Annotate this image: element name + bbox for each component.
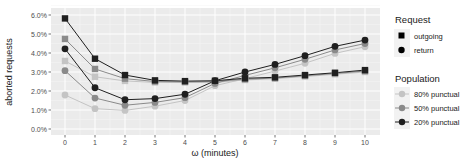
y-tick-label: 6.0% [31, 12, 47, 19]
legend-item-outgoing: outgoing [394, 29, 443, 43]
legend-label-50-punctual: 50% punctual [414, 104, 460, 113]
chart: 0.0%1.0%2.0%3.0%4.0%5.0%6.0% 01234567891… [0, 0, 476, 162]
square-marker-icon [399, 33, 405, 39]
circle-data-point [242, 69, 249, 76]
legend-title-population: Population [395, 73, 440, 84]
x-tick-label: 5 [213, 139, 217, 146]
square-data-point [62, 36, 68, 42]
legend: Request outgoing return Population 80% p… [394, 14, 460, 129]
legend-label-20-punctual: 20% punctual [414, 118, 460, 127]
square-data-point [302, 72, 308, 78]
legend-item-20-punctual: 20% punctual [394, 115, 460, 129]
circle-data-point [152, 95, 159, 102]
y-axis-title: aborted requests [4, 38, 14, 106]
square-data-point [62, 15, 68, 21]
square-data-point [62, 58, 68, 64]
x-tick-label: 10 [361, 139, 369, 146]
y-tick-label: 3.0% [31, 69, 47, 76]
circle-data-point [362, 37, 369, 44]
circle-data-point [92, 105, 99, 112]
dark-circle-marker-icon [399, 119, 405, 125]
legend-label-outgoing: outgoing [414, 32, 443, 41]
x-tick-label: 6 [243, 139, 247, 146]
square-data-point [122, 72, 128, 78]
x-axis-title: ω (minutes) [191, 148, 238, 158]
y-tick-label: 5.0% [31, 31, 47, 38]
circle-data-point [122, 96, 129, 103]
square-data-point [272, 74, 278, 80]
square-data-point [182, 78, 188, 84]
x-tick-label: 8 [303, 139, 307, 146]
x-tick-label: 1 [93, 139, 97, 146]
medium-circle-marker-icon [399, 105, 405, 111]
x-axis: 012345678910 [63, 135, 369, 146]
circle-data-point [212, 77, 219, 84]
circle-data-point [272, 61, 279, 68]
circle-data-point [332, 43, 339, 50]
circle-data-point [302, 52, 309, 59]
circle-data-point [182, 91, 189, 98]
legend-label-80-punctual: 80% punctual [414, 90, 460, 99]
y-tick-label: 0.0% [31, 126, 47, 133]
x-tick-label: 3 [153, 139, 157, 146]
x-tick-label: 7 [273, 139, 277, 146]
x-tick-label: 0 [63, 139, 67, 146]
square-data-point [332, 70, 338, 76]
x-tick-label: 4 [183, 139, 187, 146]
circle-marker-icon [398, 47, 404, 53]
circle-data-point [62, 45, 69, 52]
square-data-point [92, 74, 98, 80]
legend-title-request: Request [395, 14, 431, 25]
legend-item-80-punctual: 80% punctual [394, 87, 460, 101]
circle-data-point [92, 95, 99, 102]
y-tick-label: 1.0% [31, 107, 47, 114]
square-data-point [92, 66, 98, 72]
light-circle-marker-icon [399, 91, 405, 97]
y-axis: 0.0%1.0%2.0%3.0%4.0%5.0%6.0% [31, 12, 51, 133]
y-tick-label: 4.0% [31, 50, 47, 57]
circle-data-point [62, 92, 69, 99]
square-data-point [152, 77, 158, 83]
square-data-point [362, 67, 368, 73]
legend-item-return: return [394, 43, 434, 57]
square-data-point [92, 56, 98, 62]
x-tick-label: 9 [333, 139, 337, 146]
square-data-point [242, 75, 248, 81]
circle-data-point [92, 84, 99, 91]
legend-item-50-punctual: 50% punctual [394, 101, 460, 115]
circle-data-point [62, 67, 69, 74]
legend-label-return: return [414, 46, 434, 55]
y-tick-label: 2.0% [31, 88, 47, 95]
x-tick-label: 2 [123, 139, 127, 146]
